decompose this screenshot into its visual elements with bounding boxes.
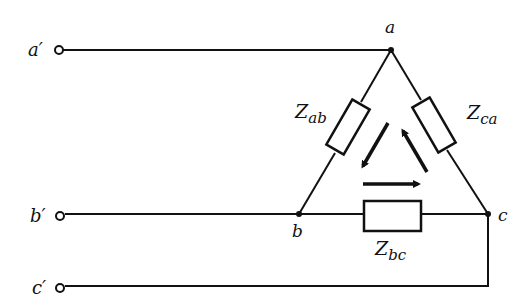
delta-circuit-diagram: a′ b′ c′ a b c Zab Zca Zbc — [0, 0, 527, 308]
impedance-zbc — [364, 201, 421, 231]
label-node-a: a — [385, 17, 395, 37]
label-node-c: c — [498, 205, 508, 225]
node-b — [296, 211, 302, 217]
label-zbc: Zbc — [374, 237, 407, 264]
wire-c — [65, 214, 488, 286]
wire-ab-bottom — [299, 153, 335, 214]
terminal-a-prime — [55, 46, 63, 54]
impedance-zab — [326, 99, 369, 154]
node-a — [388, 47, 394, 53]
wire-ab-top — [361, 50, 391, 102]
impedance-zca — [412, 97, 455, 152]
label-a-prime: a′ — [28, 39, 43, 60]
terminal-b-prime — [56, 212, 64, 220]
arrow-ab — [363, 123, 388, 166]
node-c — [485, 211, 491, 217]
label-c-prime: c′ — [32, 277, 46, 298]
label-zca: Zca — [466, 101, 498, 128]
wire-ca-top — [391, 50, 421, 100]
label-b-prime: b′ — [30, 205, 46, 226]
svg-text:Zbc: Zbc — [374, 237, 407, 264]
svg-text:Zab: Zab — [294, 100, 327, 127]
terminal-c-prime — [56, 284, 64, 292]
arrow-ca — [403, 131, 427, 172]
wire-ca-bottom — [447, 150, 488, 214]
svg-text:Zca: Zca — [466, 101, 498, 128]
label-zab: Zab — [294, 100, 327, 127]
label-node-b: b — [292, 221, 303, 241]
